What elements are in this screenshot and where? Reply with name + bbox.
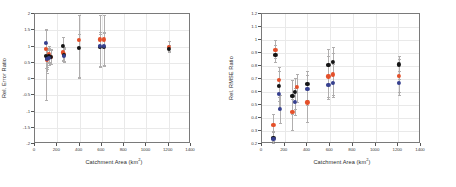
error-bar-cap [306, 71, 309, 72]
x-tick [123, 143, 124, 146]
data-point-red [102, 37, 106, 41]
plot-area-left [34, 13, 190, 143]
error-bar-cap [48, 65, 51, 66]
data-point-red [331, 72, 335, 76]
y-tick [258, 65, 261, 66]
y-tick-label: 0.7 [235, 76, 257, 81]
y-tick [31, 13, 34, 14]
data-point-red [397, 74, 401, 78]
x-tick-label: 200 [280, 147, 287, 152]
x-gridline [169, 14, 170, 142]
error-bar-cap [48, 46, 51, 47]
error-bar-cap [46, 73, 49, 74]
data-point-red [290, 109, 294, 113]
y-tick-label: 0.6 [235, 89, 257, 94]
data-point-red [305, 100, 309, 104]
error-bar-cap [272, 143, 275, 144]
error-bar-cap [274, 40, 277, 41]
data-point-red [295, 85, 299, 89]
x-axis-title-right: Catchment Area (km2) [228, 159, 456, 165]
data-point-blue [397, 81, 401, 85]
x-tick [352, 143, 353, 146]
y-tick [31, 111, 34, 112]
y-tick-label: 0 [8, 76, 30, 81]
x-gridline [124, 14, 125, 142]
error-bar-cap [296, 74, 299, 75]
x-tick-label: 600 [326, 147, 333, 152]
error-bar-cap [62, 37, 65, 38]
x-tick [284, 143, 285, 146]
y-tick [31, 46, 34, 47]
error-bar-cap [294, 115, 297, 116]
y-gridline [262, 53, 419, 54]
x-gridline [330, 14, 331, 142]
data-point-blue [305, 87, 309, 91]
y-tick [258, 78, 261, 79]
error-bar-cap [103, 15, 106, 16]
y-gridline [262, 27, 419, 28]
y-tick-label: 0.2 [235, 141, 257, 146]
error-bar-cap [272, 132, 275, 133]
y-tick [258, 104, 261, 105]
error-bar-cap [63, 62, 66, 63]
y-gridline [262, 105, 419, 106]
error-bar-cap [332, 64, 335, 65]
error-bar-cap [327, 99, 330, 100]
y-gridline [35, 79, 189, 80]
y-tick [31, 78, 34, 79]
y-gridline [262, 118, 419, 119]
y-tick [258, 26, 261, 27]
x-tick [34, 143, 35, 146]
error-bar-cap [306, 105, 309, 106]
error-bar-cap [78, 34, 81, 35]
x-tick [168, 143, 169, 146]
error-bar-cap [274, 62, 277, 63]
y-tick-label: 1.1 [235, 24, 257, 29]
error-bar-cap [398, 71, 401, 72]
x-tick-label: 800 [120, 147, 127, 152]
y-tick-label: 0.9 [235, 50, 257, 55]
x-tick-label: 1400 [185, 147, 194, 152]
data-point-blue [331, 81, 335, 85]
error-bar-cap [99, 66, 102, 67]
y-tick [258, 117, 261, 118]
y-tick [31, 62, 34, 63]
x-axis-title-left: Catchment Area (km2) [0, 159, 228, 165]
x-tick-label: 800 [348, 147, 355, 152]
y-tick-label: 0.3 [235, 128, 257, 133]
y-tick [258, 130, 261, 131]
data-point-black [305, 82, 309, 86]
data-point-blue [278, 107, 282, 111]
y-tick [31, 143, 34, 144]
error-bar-cap [274, 45, 277, 46]
data-point-blue [43, 41, 47, 45]
y-gridline [35, 112, 189, 113]
x-tick-label: 400 [75, 147, 82, 152]
error-bar-cap [99, 15, 102, 16]
data-point-black [277, 84, 281, 88]
y-gridline [262, 40, 419, 41]
error-bar-cap [99, 32, 102, 33]
x-tick [190, 143, 191, 146]
x-tick-label: 600 [97, 147, 104, 152]
error-bar-cap [78, 78, 81, 79]
error-bar-cap [306, 75, 309, 76]
error-bar-cap [103, 65, 106, 66]
x-tick [397, 143, 398, 146]
y-tick [258, 143, 261, 144]
data-point-blue [62, 54, 66, 58]
data-point-red [277, 78, 281, 82]
x-tick [375, 143, 376, 146]
y-tick-label: 0.4 [235, 115, 257, 120]
y-gridline [35, 95, 189, 96]
y-gridline [262, 79, 419, 80]
data-point-red [271, 123, 275, 127]
error-bar-cap [332, 97, 335, 98]
y-tick [31, 127, 34, 128]
y-tick [258, 13, 261, 14]
error-bar-cap [278, 67, 281, 68]
y-gridline [35, 30, 189, 31]
y-tick [258, 52, 261, 53]
y-gridline [35, 128, 189, 129]
x-gridline [376, 14, 377, 142]
